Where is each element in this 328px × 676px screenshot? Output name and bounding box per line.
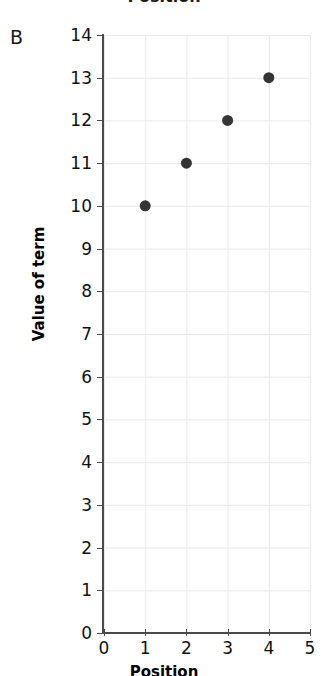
x-tick-mark [186, 629, 187, 636]
data-point [222, 115, 233, 126]
y-tick-mark [97, 334, 104, 335]
x-tick-label: 2 [166, 639, 206, 657]
y-tick-mark [97, 291, 104, 292]
clipped-top-title-text: Position [0, 0, 328, 6]
y-tick-label: 5 [48, 410, 92, 428]
y-tick-label: 9 [48, 240, 92, 258]
x-tick-mark [145, 629, 146, 636]
data-point [140, 200, 151, 211]
y-tick-label: 13 [48, 69, 92, 87]
y-tick-mark [97, 377, 104, 378]
y-tick-mark [97, 35, 104, 36]
data-point [181, 158, 192, 169]
y-tick-label: 11 [48, 154, 92, 172]
x-axis-title: Position [0, 663, 328, 676]
y-tick-label: 14 [48, 26, 92, 44]
y-tick-label: 3 [48, 496, 92, 514]
x-axis-line [103, 632, 311, 634]
y-tick-label: 1 [48, 581, 92, 599]
x-tick-mark [104, 629, 105, 636]
x-tick-mark [269, 629, 270, 636]
x-tick-label: 0 [84, 639, 124, 657]
x-tick-label: 5 [290, 639, 328, 657]
y-tick-mark [97, 505, 104, 506]
y-tick-mark [97, 120, 104, 121]
y-tick-mark [97, 633, 104, 634]
x-tick-label: 1 [125, 639, 165, 657]
y-tick-label: 2 [48, 539, 92, 557]
x-axis-title-text: Position [0, 663, 328, 676]
clipped-top-title: Position [0, 0, 328, 6]
y-tick-label: 10 [48, 197, 92, 215]
y-tick-mark [97, 249, 104, 250]
y-axis-title: Value of term [30, 224, 48, 344]
y-tick-label: 6 [48, 368, 92, 386]
data-point [263, 72, 274, 83]
y-tick-label: 7 [48, 325, 92, 343]
x-tick-mark [228, 629, 229, 636]
x-tick-label: 4 [249, 639, 289, 657]
y-tick-label: 12 [48, 111, 92, 129]
y-tick-mark [97, 163, 104, 164]
x-tick-label: 3 [208, 639, 248, 657]
plot-area [104, 35, 310, 633]
y-tick-mark [97, 78, 104, 79]
y-tick-mark [97, 590, 104, 591]
x-tick-mark [310, 629, 311, 636]
data-points-layer [104, 35, 310, 633]
y-tick-mark [97, 462, 104, 463]
y-tick-label: 8 [48, 282, 92, 300]
y-tick-mark [97, 548, 104, 549]
panel-label-b: B [10, 27, 23, 47]
y-tick-label: 4 [48, 453, 92, 471]
y-tick-mark [97, 419, 104, 420]
y-tick-mark [97, 206, 104, 207]
